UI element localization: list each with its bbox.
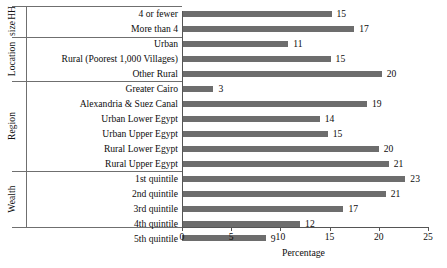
category-label: Urban Upper Egypt [102,129,182,139]
bar [182,26,354,32]
bar [182,11,332,17]
category-label: More than 4 [131,24,182,34]
bar-value-label: 20 [387,69,397,79]
bar [182,131,328,137]
bar-value-label: 15 [337,9,347,19]
category-label: 3rd quintile [134,204,183,214]
category-label: Rural (Poorest 1,000 Villages) [62,54,183,64]
bar [182,56,331,62]
category-label: 1st quintile [135,174,182,184]
group-label-wealth: Wealth [0,171,26,227]
bar [182,176,405,182]
category-label: Urban [154,39,182,49]
bar-value-label: 17 [359,24,369,34]
category-label: Urban Lower Egypt [101,114,182,124]
x-axis-tick-label: 5 [229,232,234,242]
bar-value-label: 3 [218,84,223,94]
category-label: Other Rural [132,69,182,79]
bar [182,41,288,47]
bar-value-label: 20 [384,144,394,154]
bar [182,221,300,227]
bar [182,191,386,197]
group-label-text: Wealth [8,185,18,212]
x-axis-tick-label: 25 [423,232,433,242]
group-label-location: Location [0,37,26,82]
bar [182,146,379,152]
bar [182,161,389,167]
bar [182,86,213,92]
bar [182,101,367,107]
bar-value-label: 23 [410,174,420,184]
x-axis-title: Percentage [0,248,447,258]
bar-chart: HHsizeLocationRegionWealth 4 or fewerMor… [0,0,447,268]
x-axis-tick-label: 15 [325,232,335,242]
category-label: Rural Upper Egypt [105,159,182,169]
x-axis-title-text: Percentage [282,247,325,258]
bar-value-label: 11 [293,39,302,49]
group-label-region: Region [0,81,26,171]
group-label-text: Region [8,112,18,140]
category-label: Greater Cairo [126,84,182,94]
bar-value-label: 14 [325,114,335,124]
group-label-text: Location [8,42,18,77]
bar [182,71,382,77]
category-label-column: 4 or fewerMore than 4UrbanRural (Poorest… [26,0,182,268]
bar-value-label: 21 [394,159,404,169]
group-label-hh-size: HHsize [0,6,26,36]
bar [182,235,266,241]
x-axis-line [182,227,428,228]
bar-value-label: 19 [372,99,382,109]
x-axis-tick-label: 0 [180,232,185,242]
category-label: 2nd quintile [132,189,182,199]
group-label-text: HHsize [8,6,18,36]
category-label: Rural Lower Egypt [104,144,182,154]
bar [182,116,320,122]
category-label: Alexandria & Suez Canal [80,99,182,109]
category-label: 4th quintile [134,219,182,229]
bar-value-label: 21 [391,189,401,199]
bar-value-label: 15 [336,54,346,64]
bar [182,206,343,212]
category-label: 4 or fewer [139,9,182,19]
bar-value-label: 17 [348,204,358,214]
x-axis-tick-label: 10 [276,232,286,242]
x-axis-tick-label: 20 [374,232,384,242]
category-label: 5th quintile [134,234,182,244]
bar-value-label: 15 [333,129,343,139]
y-axis-line [182,11,183,228]
